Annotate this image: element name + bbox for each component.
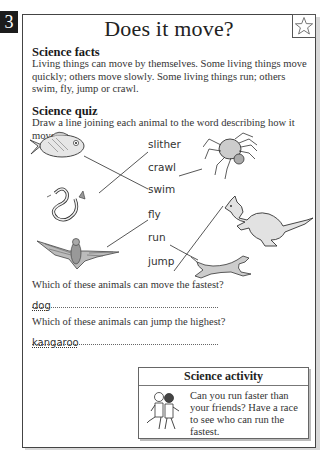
dog-illustration: [191, 252, 257, 282]
word-jump: jump: [148, 255, 174, 267]
bat-illustration: [35, 235, 121, 271]
answer-fastest-field[interactable]: dog: [32, 295, 218, 308]
activity-text: Can you run faster than your friends? Ha…: [190, 390, 308, 438]
word-crawl: crawl: [148, 161, 176, 173]
kangaroo-illustration: [221, 196, 317, 250]
question-highest: Which of these animals can jump the high…: [32, 316, 225, 327]
word-run: run: [148, 231, 166, 243]
activity-heading: Science activity: [139, 368, 308, 386]
word-swim: swim: [148, 183, 175, 195]
spider-illustration: [203, 131, 259, 181]
answer-highest-value: kangaroo: [32, 337, 79, 348]
answer-highest-field[interactable]: kangaroo: [32, 332, 218, 345]
question-fastest: Which of these animals can move the fast…: [32, 279, 224, 290]
answer-fastest-value: dog: [32, 300, 51, 311]
fish-illustration: [28, 130, 90, 162]
word-fly: fly: [148, 208, 161, 220]
page-number-badge: 3: [0, 11, 18, 33]
running-children-illustration: [145, 391, 185, 433]
science-activity-box: Science activity Can you run faster than…: [138, 367, 309, 439]
word-slither: slither: [148, 138, 181, 150]
snake-illustration: [41, 185, 91, 223]
worksheet-panel: Does it move? Science facts Living thing…: [22, 14, 316, 448]
